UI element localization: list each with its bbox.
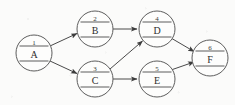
node-layer: 1 A 2 B 3 C 4 D [16,11,228,97]
node-c[interactable]: 3 C [77,61,113,97]
node-c-id: 3 [93,65,97,73]
node-a[interactable]: 1 A [16,35,52,71]
diagram-canvas: 1 A 2 B 3 C 4 D [0,0,235,105]
edge-e-to-f [171,62,194,70]
edge-c-to-d [110,41,143,69]
node-b[interactable]: 2 B [77,11,113,47]
node-e[interactable]: 5 E [139,61,175,97]
node-c-label: C [92,75,99,86]
activity-network-graph: 1 A 2 B 3 C 4 D [0,0,235,105]
edge-a-to-c [50,61,77,74]
edge-a-to-b [50,34,77,47]
node-e-id: 5 [155,65,159,73]
node-a-label: A [30,49,38,60]
edge-d-to-f [171,38,194,52]
node-f-label: F [207,54,213,65]
node-a-id: 1 [32,39,36,47]
node-b-id: 2 [93,15,97,23]
node-e-label: E [154,75,160,86]
node-d-id: 4 [155,15,159,23]
node-f-id: 6 [208,44,212,52]
node-f[interactable]: 6 F [192,40,228,76]
node-d-label: D [153,25,160,36]
node-b-label: B [92,25,99,36]
node-d[interactable]: 4 D [139,11,175,47]
